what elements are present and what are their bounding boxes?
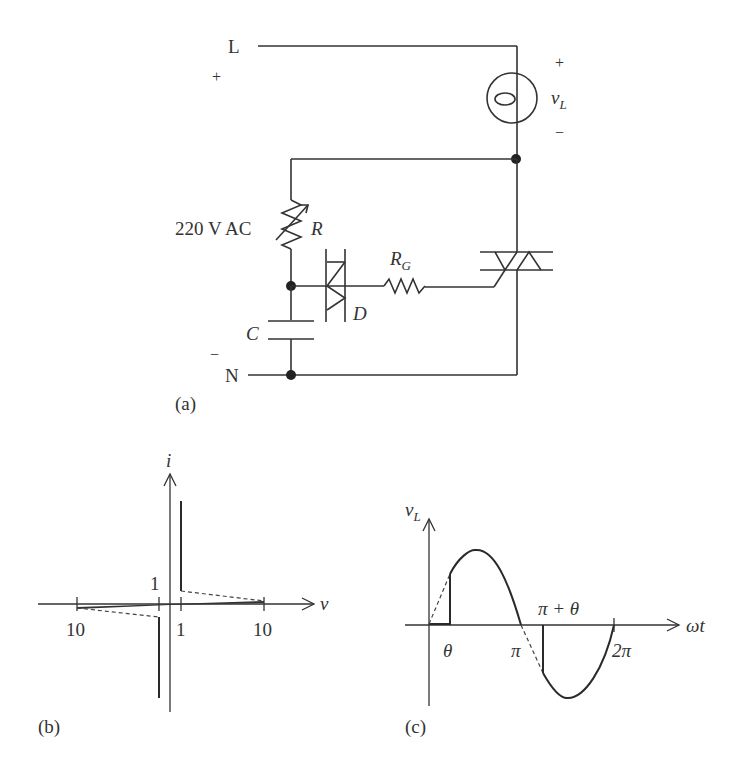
positive-half-wave	[450, 550, 521, 625]
lamp-filament-icon	[495, 93, 515, 105]
suppressed-positive-portion	[429, 574, 450, 624]
node-N-label: N	[225, 365, 239, 386]
gate-lead	[494, 270, 505, 287]
load-voltage-label: vL	[551, 87, 567, 112]
tick-label-neg1: 1	[150, 573, 160, 594]
figure-canvas: L + 220 V AC − N + vL − R RG D C (a) i	[0, 0, 745, 770]
diac-label: D	[352, 303, 367, 324]
variable-resistor-icon	[282, 200, 301, 249]
load-minus-sign: −	[555, 124, 564, 141]
y-axis-label: i	[166, 450, 171, 471]
panel-c-caption: (c)	[405, 716, 426, 738]
y-axis-label: vL	[405, 499, 421, 524]
tick-label-pos1: 1	[176, 619, 186, 640]
variable-resistor-arrow-icon	[276, 205, 308, 240]
panel-b-iv-characteristic: i v 10 1 1 10 (b)	[38, 450, 329, 738]
tick-label-2pi: 2π	[612, 640, 632, 661]
x-axis-label: v	[320, 593, 329, 614]
tick-label-pi-plus-theta: π + θ	[538, 598, 579, 619]
node-L-label: L	[228, 36, 240, 57]
tick-label-neg10: 10	[66, 619, 85, 640]
panel-a-caption: (a)	[175, 393, 196, 415]
forward-negative-resistance	[181, 591, 264, 601]
panel-c-load-voltage-waveform: vL ωt θ π π + θ 2π (c)	[405, 499, 705, 738]
source-minus-sign: −	[210, 346, 219, 363]
tick-label-theta: θ	[443, 640, 452, 661]
source-voltage-label: 220 V AC	[175, 218, 251, 239]
junction-dot	[286, 370, 296, 380]
reverse-negative-resistance	[77, 608, 159, 617]
x-axis-label: ωt	[686, 615, 705, 636]
tick-label-pos10: 10	[253, 619, 272, 640]
source-plus-sign: +	[212, 68, 221, 85]
tick-label-pi: π	[511, 640, 521, 661]
capacitor-label: C	[246, 323, 259, 344]
reverse-leakage-wedge	[77, 604, 170, 609]
triac-icon	[480, 252, 553, 270]
gate-resistor-icon	[384, 279, 425, 293]
negative-half-wave	[543, 625, 614, 698]
gate-resistor-label: RG	[389, 248, 412, 273]
panel-b-caption: (b)	[38, 716, 60, 738]
diac-icon	[326, 249, 345, 322]
resistor-label: R	[310, 218, 323, 239]
load-plus-sign: +	[555, 54, 564, 71]
panel-a-circuit: L + 220 V AC − N + vL − R RG D C (a)	[175, 36, 567, 415]
suppressed-negative-portion	[521, 625, 543, 673]
